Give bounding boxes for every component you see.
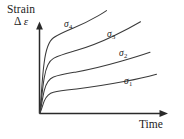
sigma-symbol: σ (119, 48, 124, 58)
creep-curve-sigma-2 (40, 52, 150, 113)
curve-label-sigma-3: σ3 (107, 29, 115, 39)
curve-label-sigma-2: σ2 (119, 48, 127, 58)
creep-curve-group (40, 11, 157, 113)
sigma-subscript: 4 (69, 23, 72, 30)
curve-label-sigma-4: σ4 (64, 19, 72, 29)
x-axis (40, 110, 169, 117)
sigma-symbol: σ (124, 76, 129, 86)
sigma-symbol: σ (64, 19, 69, 29)
creep-curve-sigma-1 (40, 74, 157, 113)
up-arrow-icon (36, 22, 43, 30)
curve-label-sigma-1: σ1 (124, 76, 132, 86)
creep-diagram-figure: Strain Δ ε Time σ4 σ3 σ2 σ1 (0, 0, 184, 139)
sigma-subscript: 2 (124, 52, 127, 59)
epsilon-symbol: ε (24, 15, 28, 27)
creep-curve-sigma-3 (40, 22, 141, 113)
x-axis-label-time: Time (139, 119, 163, 131)
delta-symbol: Δ (14, 15, 24, 27)
sigma-symbol: σ (107, 29, 112, 39)
right-arrow-icon (160, 110, 169, 117)
sigma-subscript: 3 (112, 33, 115, 40)
sigma-subscript: 1 (129, 80, 132, 87)
y-axis-label-delta-epsilon: Δ ε (14, 16, 28, 28)
